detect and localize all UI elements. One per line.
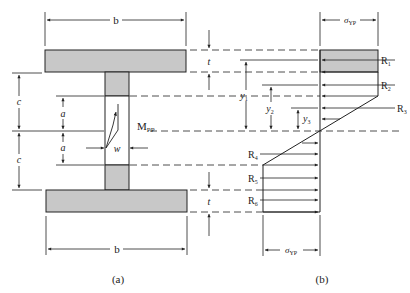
- resultant-r6-label: R6: [248, 195, 258, 207]
- half-depth-top-label: c: [17, 96, 22, 107]
- caption-b: (b): [316, 273, 329, 286]
- lever-arm-y2-label: y2: [265, 103, 273, 115]
- bottom-width-dimension: b: [46, 216, 187, 255]
- top-width-label: b: [113, 14, 119, 26]
- resultant-r1-label: R1: [381, 55, 391, 67]
- flange-thickness-bottom-label: t: [208, 196, 211, 207]
- web-width-label: w: [114, 143, 121, 154]
- flange-thickness-dimensions: t t: [208, 30, 211, 236]
- beam-diagram: b MPP w c c: [0, 0, 410, 293]
- resultant-r5-label: R5: [248, 173, 258, 185]
- elastic-core-top-label: a: [61, 108, 66, 119]
- lever-arm-y1-label: y1: [239, 90, 247, 102]
- moment-label: MPP: [137, 120, 155, 134]
- resultant-r4-label: R4: [248, 149, 258, 161]
- web-elastic-core: [105, 96, 129, 165]
- resultant-r2-label: R2: [381, 80, 391, 92]
- web-top-plastic: [105, 72, 129, 96]
- panel-a: b MPP w c c: [12, 12, 187, 286]
- bottom-width-label: b: [114, 243, 120, 255]
- top-width-dimension: b: [45, 12, 186, 46]
- top-flange-stress-block: [320, 50, 378, 72]
- top-flange: [45, 50, 186, 72]
- half-depth-dimensions: c c: [12, 73, 104, 190]
- caption-a: (a): [112, 273, 125, 286]
- dashed-level-lines: [130, 50, 400, 212]
- lever-arm-y3-label: y3: [302, 113, 310, 125]
- half-depth-bottom-label: c: [17, 154, 22, 165]
- elastic-core-bottom-label: a: [61, 142, 66, 153]
- web-width-dimension: w: [86, 143, 148, 154]
- tension-arrows: [260, 143, 318, 212]
- stress-top-label: σYP: [344, 15, 357, 26]
- elastic-core-dimensions: a a: [56, 96, 104, 165]
- bottom-flange: [46, 190, 187, 212]
- panel-b: σYP R1 R2 R3 R4 R5 R6: [239, 12, 406, 286]
- web-bottom-plastic: [105, 165, 129, 190]
- resultant-r3-label: R3: [397, 103, 407, 115]
- flange-thickness-top-label: t: [208, 56, 211, 67]
- stress-bottom-label: σYP: [285, 245, 298, 256]
